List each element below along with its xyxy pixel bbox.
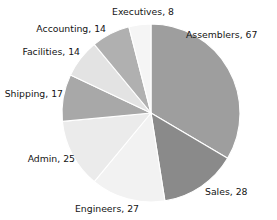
pie-label-executives: Executives, 8 <box>112 6 174 17</box>
pie-label-engineers: Engineers, 27 <box>75 203 139 214</box>
pie-slice-group <box>62 24 240 202</box>
pie-label-accounting: Accounting, 14 <box>36 23 106 34</box>
pie-label-sales: Sales, 28 <box>205 186 248 197</box>
pie-label-shipping: Shipping, 17 <box>5 88 63 99</box>
pie-chart-canvas: Assemblers, 67 Sales, 28 Engineers, 27 A… <box>0 0 277 220</box>
pie-label-assemblers: Assemblers, 67 <box>186 29 258 40</box>
pie-label-admin: Admin, 25 <box>28 153 75 164</box>
pie-label-facilities: Facilities, 14 <box>22 46 80 57</box>
pie-chart: Assemblers, 67 Sales, 28 Engineers, 27 A… <box>0 0 277 220</box>
